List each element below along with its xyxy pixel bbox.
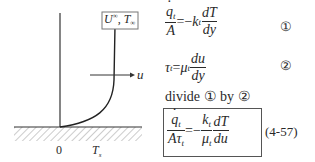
velocity-profile-curve <box>60 26 115 127</box>
velocity-label: u <box>137 67 144 83</box>
q-subscript: t <box>178 119 181 129</box>
dT-dy-fraction: dT dy <box>201 6 218 37</box>
marker-1: ① <box>204 89 217 104</box>
equals-minus: =− <box>177 14 193 30</box>
k-over-mu-fraction: kt μt <box>201 113 213 148</box>
divide-text: divide <box>165 89 200 104</box>
wall-temperature-label: Ts <box>92 143 101 159</box>
origin-label: 0 <box>56 143 62 158</box>
marker-2: ② <box>238 89 251 104</box>
dT-du-fraction: dT du <box>212 115 229 146</box>
divide-instruction: divide ① by ② <box>165 88 251 105</box>
result-lhs-fraction: qt Aτt <box>167 113 185 148</box>
wall-hatching <box>14 127 142 141</box>
mu-symbol: μ <box>202 131 209 146</box>
du: du <box>190 52 206 67</box>
equation-number: (4-57) <box>265 124 298 140</box>
area-symbol: A <box>165 22 176 38</box>
by-text: by <box>220 89 234 104</box>
separator: , <box>118 12 121 26</box>
du-dy-fraction: du dy <box>190 52 206 83</box>
du: du <box>213 130 229 146</box>
infinity-subscript: ∞ <box>130 19 135 27</box>
dy: dy <box>190 67 205 83</box>
freestream-velocity-symbol: U <box>104 12 113 26</box>
wall-temp-symbol: T <box>92 143 99 157</box>
result-equation: qt Aτt =− kt μt dT du <box>167 113 229 148</box>
equation-1-marker: ① <box>280 19 292 35</box>
wall-temp-subscript: s <box>99 151 102 159</box>
equation-1: qt A =− kt dT dy <box>165 5 218 38</box>
mu-symbol: μ <box>180 60 187 76</box>
tau-subscript: t <box>182 138 185 148</box>
q-symbol: q <box>166 4 173 19</box>
equals-minus: =− <box>185 123 201 139</box>
arrow-head-icon <box>130 73 135 78</box>
k-subscript: t <box>209 119 212 129</box>
A-tau: Aτ <box>168 131 182 146</box>
equation-2-marker: ② <box>280 58 292 74</box>
q-subscript: t <box>173 11 176 21</box>
dT: dT <box>201 6 218 21</box>
mu-subscript: t <box>209 138 212 148</box>
dT: dT <box>212 115 229 130</box>
boundary-layer-diagram <box>0 0 160 162</box>
dy: dy <box>202 21 217 37</box>
q-symbol: q <box>171 112 178 127</box>
heat-flux-fraction: qt A <box>165 5 177 38</box>
equation-2: τt = μt du dy <box>165 52 206 83</box>
freestream-label: U∞, T∞ <box>104 12 135 27</box>
